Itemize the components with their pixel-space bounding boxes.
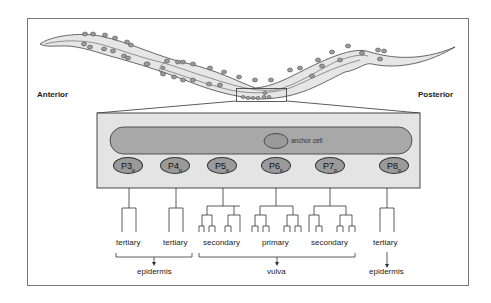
fate-label-p6: primary: [262, 238, 289, 247]
fate-label-p4: tertiary: [163, 238, 187, 247]
fate-label-p5: secondary: [203, 238, 240, 247]
posterior-label: Posterior: [418, 90, 453, 99]
fate-label-p8: tertiary: [373, 238, 397, 247]
precursor-cell-p8: P8p: [379, 157, 409, 174]
anchor-cell-label: anchor cell: [291, 137, 322, 144]
anterior-label: Anterior: [37, 90, 68, 99]
precursor-cell-p7: P7p: [315, 157, 345, 174]
outcome-epidermis-left: epidermis: [137, 267, 172, 276]
outcome-epidermis-right: epidermis: [369, 267, 404, 276]
precursor-cell-p4: P4p: [160, 157, 190, 174]
gonad: [110, 127, 412, 154]
precursor-cell-p5: P5p: [207, 157, 237, 174]
cell-lineage-trees: [116, 188, 394, 264]
precursor-cell-p3: P3p: [113, 157, 143, 174]
fate-label-p7: secondary: [311, 238, 348, 247]
worm-illustration: [40, 32, 455, 100]
anchor-cell: [264, 134, 288, 149]
outcome-vulva: vulva: [267, 267, 286, 276]
vulval-development-diagram: [0, 0, 491, 303]
precursor-cell-p6: P6p: [261, 157, 291, 174]
fate-label-p3: tertiary: [116, 238, 140, 247]
